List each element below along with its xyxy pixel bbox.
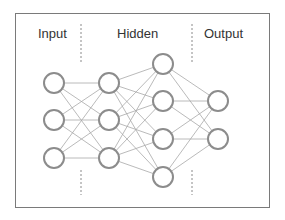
edge [109,101,163,158]
hidden1-node [99,110,119,130]
nodes [44,54,228,187]
input-node [44,73,64,93]
hidden1-node [99,148,119,168]
hidden2-node [153,129,173,149]
output-node [208,129,228,149]
input-node [44,110,64,130]
input-node [44,148,64,168]
edges [54,64,218,177]
hidden2-node [153,167,173,187]
hidden1-node [99,73,119,93]
output-node [208,91,228,111]
neural-network-graph [0,0,285,220]
hidden2-node [153,54,173,74]
hidden2-node [153,91,173,111]
